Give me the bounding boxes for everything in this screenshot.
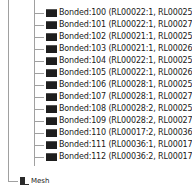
tree-item-label: Bonded:100 (RL00022:1, RL00025:1) [59,7,192,19]
tree-item-label: Bonded:112 (RL00036:2, RL00017:4) [59,151,192,163]
tree-item-bonded-107[interactable]: Bonded:107 (RL00028:1, RL00027:1) [34,91,192,103]
tree-branch-line [34,109,44,110]
tree-item-label: Bonded:106 (RL00028:1, RL00025:1) [59,79,192,91]
tree-branch-line [34,37,44,38]
tree-item-bonded-111[interactable]: Bonded:111 (RL00036:1, RL00017:3) [34,139,192,151]
tree-branch-line [34,13,44,14]
bonded-contact-icon [46,93,57,101]
tree-branch-line [34,49,44,50]
bonded-contact-icon [46,33,57,41]
tree-branch-line [34,133,44,134]
bonded-contact-icon [46,45,57,53]
model-tree: Bonded:100 (RL00022:1, RL00025:1) Bonded… [0,0,192,188]
tree-branch-line [34,25,44,26]
tree-item-label: Mesh [31,175,49,187]
mesh-icon [20,177,29,185]
bonded-contact-icon [46,129,57,137]
tree-branch-line [34,61,44,62]
bonded-contact-icon [46,69,57,77]
tree-item-bonded-103[interactable]: Bonded:103 (RL00021:1, RL00026:1) [34,43,192,55]
tree-item-label: Bonded:103 (RL00021:1, RL00026:1) [59,43,192,55]
tree-item-label: Bonded:108 (RL00028:2, RL00025:1) [59,103,192,115]
tree-branch-line [34,97,44,98]
tree-item-mesh[interactable]: Mesh [8,175,49,187]
tree-item-bonded-101[interactable]: Bonded:101 (RL00022:1, RL00027:1) [34,19,192,31]
tree-item-label: Bonded:110 (RL00017:2, RL00036:2) [59,127,192,139]
tree-item-label: Bonded:104 (RL00022:1, RL00025:1) [59,55,192,67]
tree-item-label: Bonded:102 (RL00021:1, RL00025:1) [59,31,192,43]
tree-item-bonded-102[interactable]: Bonded:102 (RL00021:1, RL00025:1) [34,31,192,43]
tree-item-label: Bonded:109 (RL00028:2, RL00027:1) [59,115,192,127]
tree-item-label: Bonded:107 (RL00028:1, RL00027:1) [59,91,192,103]
tree-item-bonded-104[interactable]: Bonded:104 (RL00022:1, RL00025:1) [34,55,192,67]
tree-item-bonded-106[interactable]: Bonded:106 (RL00028:1, RL00025:1) [34,79,192,91]
bonded-contact-icon [46,81,57,89]
bonded-contact-icon [46,141,57,149]
tree-item-bonded-100[interactable]: Bonded:100 (RL00022:1, RL00025:1) [34,7,192,19]
tree-branch-line [34,121,44,122]
bonded-contact-icon [46,105,57,113]
tree-item-label: Bonded:111 (RL00036:1, RL00017:3) [59,139,192,151]
bonded-contact-icon [46,57,57,65]
tree-item-bonded-108[interactable]: Bonded:108 (RL00028:2, RL00025:1) [34,103,192,115]
tree-item-bonded-109[interactable]: Bonded:109 (RL00028:2, RL00027:1) [34,115,192,127]
tree-item-bonded-110[interactable]: Bonded:110 (RL00017:2, RL00036:2) [34,127,192,139]
tree-item-label: Bonded:101 (RL00022:1, RL00027:1) [59,19,192,31]
tree-branch-line [34,157,44,158]
tree-branch-line [34,145,44,146]
tree-connector-outer [8,0,9,182]
tree-branch-line [34,85,44,86]
bonded-contact-icon [46,153,57,161]
bonded-contact-icon [46,9,57,17]
tree-branch-line [8,181,18,182]
tree-item-bonded-105[interactable]: Bonded:105 (RL00022:1, RL00026:1) [34,67,192,79]
tree-branch-line [34,73,44,74]
bonded-contact-icon [46,117,57,125]
tree-item-label: Bonded:105 (RL00022:1, RL00026:1) [59,67,192,79]
tree-item-bonded-112[interactable]: Bonded:112 (RL00036:2, RL00017:4) [34,151,192,163]
bonded-contact-icon [46,21,57,29]
